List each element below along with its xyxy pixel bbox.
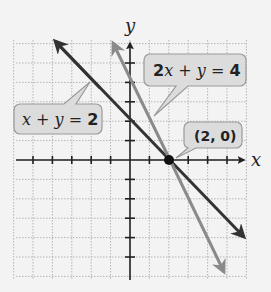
var-x: x [22,110,31,129]
num: 2 [87,110,98,129]
x-axis-label: x [251,149,261,170]
svg-text:2x + y = 4: 2x + y = 4 [153,61,241,80]
coef: 2 [153,61,164,80]
op-plus: + [31,110,55,129]
line-x-plus-y-eq-2-tail [55,41,100,88]
y-axis-label: y [124,15,136,36]
op-eq: = [206,61,230,80]
intersection-point [164,155,174,165]
callout-point-2-0: (2, 0) [176,122,242,158]
num: 4 [229,61,240,80]
op-eq: = [64,110,88,129]
svg-text:x + y = 2: x + y = 2 [22,110,98,129]
point-label: (2, 0) [194,128,236,144]
callout-2x-plus-y-eq-4: 2x + y = 4 [144,54,246,116]
op-plus: + [173,61,197,80]
line-2x-plus-y-eq-4 [170,160,224,272]
callout-x-plus-y-eq-2: x + y = 2 [14,82,102,134]
linear-system-graph: x y 2x + y = 4 x + y = 2 (2, 0) [0,0,271,292]
var-x: x [164,61,173,80]
